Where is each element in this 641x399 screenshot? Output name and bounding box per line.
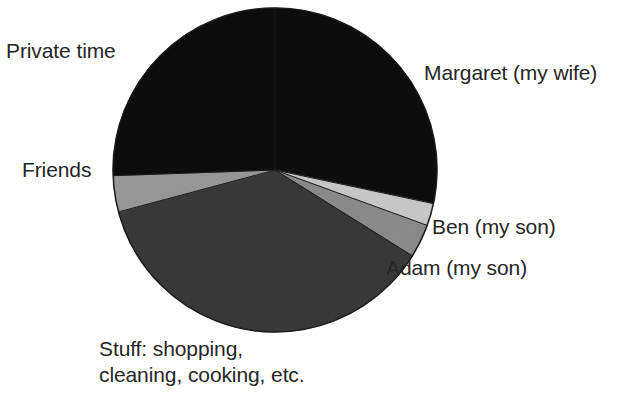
- pie-slice-label-private-time: Private time: [6, 38, 116, 64]
- pie-slice-label-stuff: Stuff: shopping,cleaning, cooking, etc.: [99, 336, 305, 387]
- pie-slice: [113, 8, 275, 176]
- pie-slice-label-margaret: Margaret (my wife): [424, 60, 597, 86]
- pie-slice-label-stuff-line2: cleaning, cooking, etc.: [99, 363, 305, 386]
- pie-slice-label-adam: Adam (my son): [386, 255, 527, 281]
- pie-slice-label-stuff-line1: Stuff: shopping,: [99, 337, 243, 360]
- pie-chart-page: Private time Margaret (my wife) Friends …: [0, 0, 641, 399]
- pie-slice-label-friends: Friends: [22, 157, 91, 183]
- pie-slice: [275, 8, 437, 204]
- pie-slice-label-ben: Ben (my son): [432, 214, 556, 240]
